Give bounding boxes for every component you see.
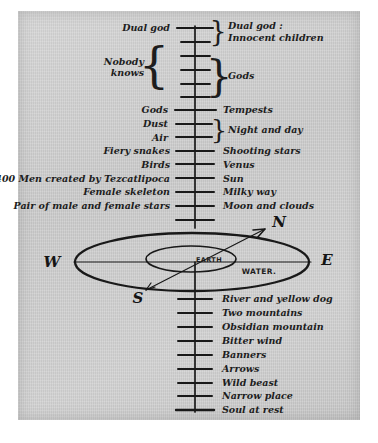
label-left-gods: Gods	[142, 104, 169, 115]
brace-night-and-day-right: }	[211, 115, 228, 145]
label-left-400-men: 400 Men created by Tezcatlipoca	[0, 173, 170, 184]
cosmology-figure: Dual god Nobody knows Gods Dust Air Fier…	[0, 0, 378, 443]
label-lower-narrow-place: Narrow place	[221, 390, 293, 401]
label-right-venus: Venus	[223, 159, 255, 170]
label-left-air: Air	[151, 132, 169, 143]
label-right-dual-god: Dual god :	[227, 20, 283, 31]
label-lower-bitter-wind: Bitter wind	[221, 335, 282, 346]
brace-nobody-knows-left: {	[139, 37, 170, 93]
label-right-night-and-day: Night and day	[227, 124, 304, 135]
label-left-female-skeleton: Female skeleton	[82, 186, 170, 197]
label-lower-arrows: Arrows	[221, 363, 260, 374]
label-lower-banners: Banners	[221, 349, 267, 360]
earth-ellipse	[146, 246, 236, 272]
label-right-shooting-stars: Shooting stars	[223, 145, 301, 156]
label-left-birds: Birds	[140, 159, 170, 170]
label-lower-two-mountains: Two mountains	[222, 307, 303, 318]
label-right-tempests: Tempests	[223, 104, 273, 115]
label-right-milky-way: Milky way	[222, 186, 277, 197]
label-right-sun: Sun	[223, 173, 244, 184]
label-lower-obsidian-mountain: Obsidian mountain	[222, 321, 324, 332]
label-lower-wild-beast: Wild beast	[222, 377, 279, 388]
label-right-moon-and-clouds: Moon and clouds	[222, 200, 315, 211]
brace-gods-right: }	[206, 52, 233, 101]
compass-label-east: E	[320, 251, 333, 269]
label-left-fiery-snakes: Fiery snakes	[102, 145, 170, 156]
label-left-dual-god: Dual god	[121, 22, 170, 33]
compass-label-north: N	[271, 213, 287, 231]
compass-label-south: S	[133, 289, 144, 307]
brace-dual-god-right: }	[209, 16, 226, 47]
label-right-innocent-children: Innocent children	[227, 32, 324, 43]
diagram-canvas: Dual god Nobody knows Gods Dust Air Fier…	[0, 0, 378, 443]
label-lower-soul-at-rest: Soul at rest	[222, 404, 284, 415]
label-left-pair-of-stars: Pair of male and female stars	[13, 200, 171, 211]
label-water: WATER.	[242, 267, 277, 276]
compass-label-west: W	[44, 253, 63, 271]
label-earth: EARTH	[196, 256, 222, 264]
label-left-dust: Dust	[142, 118, 168, 129]
label-lower-river-and-yellow-dog: River and yellow dog	[221, 293, 333, 304]
